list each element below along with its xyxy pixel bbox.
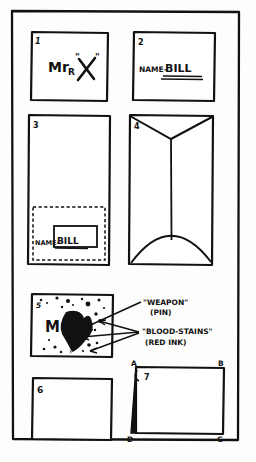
weapon-annotation-title: "WEAPON" <box>143 298 188 307</box>
panel-3-name-label: NAME- <box>35 239 59 247</box>
panel-3-folded-sheet[interactable]: 3 NAME- BILL <box>28 115 110 265</box>
panel-6-blank-card[interactable]: 6 <box>32 378 112 440</box>
panel-1-mr-text: Mr <box>48 59 69 75</box>
panel-2-number: 2 <box>138 38 144 47</box>
panel-2-underline-1 <box>163 76 202 77</box>
panel-3-number: 3 <box>33 121 39 130</box>
panel-4-number: 4 <box>134 122 140 131</box>
panel-6-number: 6 <box>37 385 43 395</box>
panel-2-underline-2 <box>161 79 203 80</box>
panel-3-name-value: BILL <box>57 236 79 246</box>
panel-7-corner-c: C <box>217 435 223 444</box>
panel-2-name-line[interactable]: 2 NAME- BILL <box>133 32 215 101</box>
panel-2-name-label: NAME- <box>139 65 167 74</box>
panel-5-letter: M <box>45 318 60 336</box>
panel-1-number: 1 <box>35 37 41 46</box>
blood-stains-annotation-detail: (RED INK) <box>145 338 186 347</box>
panel-1-mr-subscript: R <box>68 67 75 77</box>
diagram-sheet: 1 Mr R " " 2 NAME- BILL 3 NAME- BILL 4 <box>0 0 256 462</box>
weapon-annotation-detail: (PIN) <box>150 308 171 317</box>
panel-2-name-value: BILL <box>165 62 192 75</box>
panel-7-corner-a: A <box>131 359 137 368</box>
panel-5-number: 5 <box>36 301 41 310</box>
panel-6-border <box>32 378 112 440</box>
panel-4-center-seam <box>171 139 172 240</box>
panel-7-corner-d: D <box>127 435 133 444</box>
panel-1-card-front[interactable]: 1 Mr R " " <box>31 32 108 101</box>
panel-7-number: 7 <box>144 373 150 382</box>
blood-stains-annotation-title: "BLOOD-STAINS" <box>142 327 213 336</box>
panel-1-quote-close: " <box>95 52 100 62</box>
panel-3-underline <box>55 248 88 249</box>
panel-4-envelope-back[interactable]: 4 <box>129 115 213 265</box>
panel-7-square-abcd[interactable]: 7 A B C D <box>127 359 224 444</box>
panel-7-corner-b: B <box>218 359 224 368</box>
